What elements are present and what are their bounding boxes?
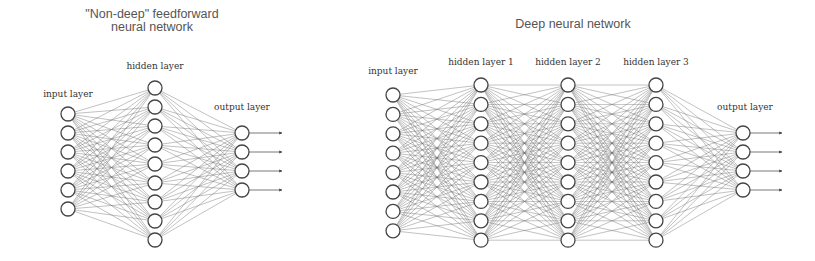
layer-input-layer: input layer [43,89,93,216]
neuron-node [148,81,162,95]
neuron-node [386,146,400,160]
neuron-node [235,126,249,140]
neuron-node [649,156,663,170]
diagram-title: neural network [111,20,194,34]
layer-label: hidden layer 1 [448,57,514,67]
layer-label: output layer [214,102,271,112]
neuron-node [474,175,488,189]
neuron-node [561,117,575,131]
neuron-node [736,164,750,178]
deep-network-diagram: Deep neural networkinput layerhidden lay… [368,17,782,247]
neural-network-diagrams: "Non-deep" feedforwardneural networkinpu… [0,0,815,261]
neuron-node [474,97,488,111]
neuron-node [148,119,162,133]
neuron-node [386,127,400,141]
neuron-node [649,78,663,92]
neuron-node [736,126,750,140]
neuron-node [561,97,575,111]
neuron-node [649,97,663,111]
neuron-node [649,175,663,189]
neuron-node [474,194,488,208]
layer-hidden-layer-3: hidden layer 3 [623,57,689,247]
neuron-node [386,107,400,121]
neuron-node [474,156,488,170]
layer-label: hidden layer [126,61,184,71]
neuron-node [561,233,575,247]
neuron-node [148,214,162,228]
neuron-node [736,145,750,159]
neuron-node [561,194,575,208]
layer-label: hidden layer 3 [623,57,689,67]
neuron-node [561,214,575,228]
shallow-network-diagram: "Non-deep" feedforwardneural networkinpu… [43,7,282,247]
neuron-node [386,204,400,218]
neuron-node [148,176,162,190]
neuron-node [61,202,75,216]
neuron-node [235,183,249,197]
neuron-node [148,195,162,209]
layer-output-layer: output layer [214,102,271,197]
layer-label: input layer [43,89,93,99]
neuron-node [61,164,75,178]
layer-output-layer: output layer [717,102,774,197]
neuron-node [649,194,663,208]
diagram-title: Deep neural network [515,17,631,31]
neuron-node [61,126,75,140]
neuron-node [561,136,575,150]
neuron-node [736,183,750,197]
neuron-node [649,214,663,228]
neuron-node [386,224,400,238]
neuron-node [474,214,488,228]
neuron-node [474,233,488,247]
neuron-node [474,136,488,150]
neuron-node [148,157,162,171]
neuron-node [649,117,663,131]
neuron-node [61,107,75,121]
neuron-node [474,78,488,92]
neuron-node [386,185,400,199]
neuron-node [561,78,575,92]
neuron-node [561,175,575,189]
neuron-node [474,117,488,131]
diagram-title: "Non-deep" feedforward [85,7,218,21]
neuron-node [649,233,663,247]
layer-label: hidden layer 2 [535,57,601,67]
neuron-node [61,145,75,159]
neuron-node [148,233,162,247]
neuron-node [148,100,162,114]
neuron-node [386,166,400,180]
neuron-node [235,145,249,159]
neuron-node [649,136,663,150]
layer-label: output layer [717,102,774,112]
neuron-node [561,156,575,170]
neuron-node [61,183,75,197]
neuron-node [386,88,400,102]
neuron-node [148,138,162,152]
layer-label: input layer [368,66,418,76]
neuron-node [235,164,249,178]
